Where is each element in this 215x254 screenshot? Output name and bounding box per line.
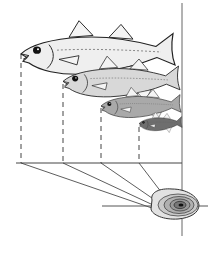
otolith-backcalculation-diagram <box>0 0 215 254</box>
otolith <box>151 189 199 219</box>
otolith-core <box>179 203 184 206</box>
